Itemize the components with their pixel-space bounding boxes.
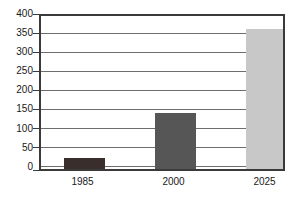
bar-1985	[64, 158, 105, 169]
y-axis-labels: 400 350 300 250 200 150 100 50 0	[0, 0, 33, 207]
y-axis-tick-label: 350	[2, 28, 33, 38]
x-axis-labels: 1985 2000 2025	[39, 176, 285, 192]
bar-2000	[155, 113, 196, 169]
y-axis-tick-label: 150	[2, 104, 33, 114]
bar-2025	[246, 29, 285, 169]
x-axis-tick-label: 2025	[239, 176, 290, 188]
y-axis-tick-label: 0	[2, 162, 33, 172]
x-axis-tick-label: 2000	[148, 176, 199, 188]
y-axis-tick-label: 400	[2, 9, 33, 19]
y-axis-tick-label: 300	[2, 47, 33, 57]
plot-area	[39, 14, 285, 171]
x-axis-tick-label: 1985	[57, 176, 108, 188]
bar-chart: 400 350 300 250 200 150 100 50 0 1985 20…	[0, 0, 299, 207]
y-axis-tick-label: 250	[2, 66, 33, 76]
y-axis-tick-label: 50	[2, 143, 33, 153]
y-axis-tick-label: 200	[2, 85, 33, 95]
y-axis-tick-label: 100	[2, 124, 33, 134]
